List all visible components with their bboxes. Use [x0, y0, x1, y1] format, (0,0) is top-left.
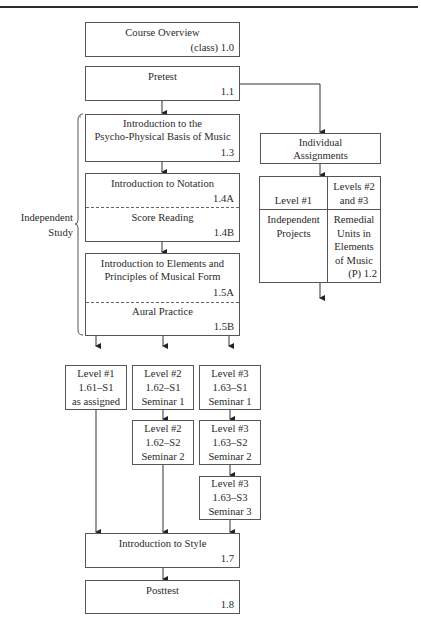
- level-line1: Level #3: [200, 477, 260, 491]
- level-box: Level #2 1.62–S1 Seminar 1: [132, 365, 194, 410]
- psycho-physical-line2: Psycho-Physical Basis of Music: [86, 130, 239, 144]
- independent-study-line1: Independent: [4, 210, 73, 225]
- level-line3: Seminar 1: [133, 395, 193, 409]
- level-line2: 1.61–S1: [66, 381, 126, 395]
- course-overview-box: Course Overview (class) 1.0: [85, 22, 240, 57]
- level-line2: 1.62–S2: [133, 436, 193, 450]
- level-line2: 1.63–S1: [200, 381, 260, 395]
- notation-code: 1.4A: [213, 192, 234, 206]
- table-col2-header-line2: and #3: [327, 194, 381, 208]
- level-line2: 1.63–S2: [200, 436, 260, 450]
- posttest-box: Posttest 1.8: [85, 580, 240, 614]
- level-box: Level #3 1.63–S3 Seminar 3: [199, 476, 261, 520]
- notation-box: Introduction to Notation 1.4A Score Read…: [85, 173, 240, 242]
- level-line1: Level #3: [200, 367, 260, 381]
- score-reading-code: 1.4B: [214, 226, 234, 240]
- level-line1: Level #3: [200, 422, 260, 436]
- elements-line1: Introduction to Elements and: [86, 257, 239, 271]
- intro-style-code: 1.7: [221, 552, 234, 566]
- psycho-physical-line1: Introduction to the: [86, 117, 239, 131]
- table-col1-body-line1: Independent: [260, 213, 327, 227]
- course-overview-code: (class) 1.0: [190, 41, 234, 55]
- elements-box: Introduction to Elements and Principles …: [85, 253, 240, 336]
- level-line2: 1.63–S3: [200, 491, 260, 505]
- aural-title: Aural Practice: [86, 305, 239, 319]
- table-col2-body-line4: of Music: [327, 254, 381, 268]
- level-line3: Seminar 1: [200, 395, 260, 409]
- intro-style-box: Introduction to Style 1.7: [85, 533, 240, 568]
- pretest-code: 1.1: [221, 85, 234, 99]
- score-reading-title: Score Reading: [86, 211, 239, 225]
- individual-assignments-line2: Assignments: [261, 149, 380, 163]
- level-line3: Seminar 3: [200, 505, 260, 519]
- individual-assignments-line1: Individual: [261, 136, 380, 150]
- course-overview-title: Course Overview: [86, 26, 239, 40]
- level-box: Level #3 1.63–S2 Seminar 2: [199, 420, 261, 465]
- level-line3: Seminar 2: [200, 450, 260, 464]
- level-line3: Seminar 2: [133, 450, 193, 464]
- individual-assignments-box: Individual Assignments: [260, 133, 381, 164]
- elements-line2: Principles of Musical Form: [86, 270, 239, 284]
- level-line1: Level #2: [133, 422, 193, 436]
- notation-title: Introduction to Notation: [86, 177, 239, 191]
- table-col2-code: (P) 1.2: [327, 267, 381, 281]
- intro-style-title: Introduction to Style: [86, 537, 239, 551]
- level-line1: Level #2: [133, 367, 193, 381]
- dashed-divider: [86, 207, 239, 208]
- elements-code: 1.5A: [213, 286, 234, 300]
- dashed-divider: [86, 302, 239, 303]
- table-col2-body-line1: Remedial: [327, 213, 381, 227]
- table-col2-header-line1: Levels #2: [327, 180, 381, 194]
- level-line1: Level #1: [66, 367, 126, 381]
- table-col1-body-line2: Projects: [260, 227, 327, 241]
- pretest-box: Pretest 1.1: [85, 66, 240, 101]
- posttest-title: Posttest: [86, 584, 239, 598]
- table-col2-body-line2: Units in: [327, 227, 381, 241]
- table-col1-header: Level #1: [260, 194, 327, 208]
- assignment-table: Level #1 Levels #2 and #3 Independent Pr…: [259, 176, 381, 283]
- level-box: Level #2 1.62–S2 Seminar 2: [132, 420, 194, 465]
- psycho-physical-code: 1.3: [221, 146, 234, 160]
- table-col2-body-line3: Elements: [327, 240, 381, 254]
- psycho-physical-box: Introduction to the Psycho-Physical Basi…: [85, 114, 240, 162]
- aural-code: 1.5B: [214, 320, 234, 334]
- level-box: Level #3 1.63–S1 Seminar 1: [199, 365, 261, 410]
- independent-study-label: Independent Study: [4, 210, 73, 240]
- level-line2: 1.62–S1: [133, 381, 193, 395]
- level-line3: as assigned: [66, 395, 126, 409]
- table-header-divider: [260, 209, 380, 210]
- independent-study-line2: Study: [4, 225, 73, 240]
- posttest-code: 1.8: [221, 598, 234, 612]
- pretest-title: Pretest: [86, 70, 239, 84]
- level-box: Level #1 1.61–S1 as assigned: [65, 365, 127, 410]
